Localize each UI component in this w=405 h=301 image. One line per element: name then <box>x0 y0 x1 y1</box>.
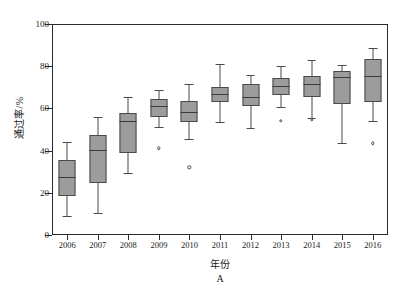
whisker-cap-lower <box>216 122 225 123</box>
y-axis-tick-label: 0 <box>45 231 50 240</box>
whisker-lower <box>219 102 220 122</box>
whisker-cap-upper <box>185 84 194 85</box>
x-axis-title: 年份 <box>210 256 230 271</box>
box-iqr <box>303 76 320 97</box>
box-iqr <box>211 87 228 102</box>
outlier-point <box>371 142 374 145</box>
whisker-cap-lower <box>185 139 194 140</box>
whisker-cap-lower <box>93 213 102 214</box>
outlier-point <box>310 118 313 121</box>
median-line <box>120 121 137 122</box>
x-axis-tick-label: 2015 <box>334 241 351 250</box>
box-iqr <box>242 84 259 106</box>
median-line <box>59 177 76 178</box>
whisker-upper <box>372 48 373 59</box>
y-axis-tick-label: 100 <box>36 20 50 29</box>
box-iqr <box>364 59 381 102</box>
whisker-cap-lower <box>63 216 72 217</box>
whisker-lower <box>158 117 159 128</box>
outlier-point <box>188 166 191 169</box>
median-line <box>181 112 198 113</box>
box-iqr <box>120 113 137 153</box>
x-axis-tick-label: 2009 <box>150 241 167 250</box>
whisker-cap-upper <box>63 142 72 143</box>
whisker-cap-upper <box>277 66 286 67</box>
whisker-upper <box>250 75 251 84</box>
y-axis-tick-label: 20 <box>40 188 49 197</box>
whisker-lower <box>97 183 98 213</box>
whisker-cap-lower <box>154 127 163 128</box>
box-plot-2014 <box>296 24 327 235</box>
x-axis-tick-label: 2010 <box>181 241 198 250</box>
y-axis-tick-label: 40 <box>40 146 49 155</box>
box-plot-2007 <box>83 24 114 235</box>
panel-label: A <box>216 273 223 284</box>
outlier-point <box>279 119 282 122</box>
whisker-lower <box>189 122 190 139</box>
whisker-upper <box>67 142 68 160</box>
box-iqr <box>59 160 76 196</box>
outlier-point <box>157 147 160 150</box>
whisker-lower <box>311 97 312 118</box>
whisker-cap-upper <box>246 75 255 76</box>
y-axis-tick-label: 60 <box>40 104 49 113</box>
whisker-lower <box>67 196 68 216</box>
x-axis-tick-label: 2012 <box>242 241 259 250</box>
median-line <box>334 77 351 78</box>
x-axis-tick-label: 2013 <box>273 241 290 250</box>
whisker-cap-upper <box>338 65 347 66</box>
whisker-lower <box>342 104 343 143</box>
whisker-cap-upper <box>307 60 316 61</box>
median-line <box>242 97 259 98</box>
whisker-lower <box>250 106 251 128</box>
x-axis-tick-label: 2008 <box>120 241 137 250</box>
whisker-cap-lower <box>338 143 347 144</box>
whisker-cap-upper <box>368 48 377 49</box>
box-plot-2015 <box>327 24 358 235</box>
median-line <box>303 84 320 85</box>
whisker-cap-upper <box>154 90 163 91</box>
median-line <box>273 86 290 87</box>
whisker-cap-upper <box>216 64 225 65</box>
x-axis-tick-label: 2006 <box>59 241 76 250</box>
box-iqr <box>89 135 106 184</box>
x-axis-tick-label: 2016 <box>364 241 381 250</box>
whisker-cap-lower <box>368 121 377 122</box>
box-iqr <box>150 99 167 117</box>
y-axis-tick-label: 80 <box>40 62 49 71</box>
median-line <box>211 94 228 95</box>
box-plot-2012 <box>235 24 266 235</box>
whisker-upper <box>158 90 159 98</box>
whisker-lower <box>281 95 282 108</box>
whisker-cap-lower <box>277 107 286 108</box>
whisker-cap-upper <box>124 97 133 98</box>
median-line <box>89 150 106 151</box>
box-plot-2013 <box>266 24 297 235</box>
whisker-cap-lower <box>124 173 133 174</box>
box-plot-2011 <box>205 24 236 235</box>
y-axis-title: 通过率/% <box>11 97 26 140</box>
x-axis-tick-label: 2011 <box>212 241 229 250</box>
figure: 通过率/% 年份 A 02040608010020062007200820092… <box>0 0 405 301</box>
median-line <box>364 76 381 77</box>
box-plot-2009 <box>144 24 175 235</box>
plot-area: 0204060801002006200720082009201020112012… <box>52 24 388 235</box>
x-axis-tick-label: 2014 <box>303 241 320 250</box>
whisker-cap-lower <box>246 128 255 129</box>
whisker-cap-upper <box>93 117 102 118</box>
whisker-upper <box>219 64 220 87</box>
whisker-upper <box>281 66 282 78</box>
median-line <box>150 106 167 107</box>
box-plot-2010 <box>174 24 205 235</box>
whisker-lower <box>128 153 129 173</box>
whisker-upper <box>128 97 129 113</box>
whisker-upper <box>311 60 312 76</box>
whisker-upper <box>97 117 98 135</box>
whisker-upper <box>189 84 190 101</box>
box-plot-2006 <box>52 24 83 235</box>
box-plot-2016 <box>357 24 388 235</box>
box-plot-2008 <box>113 24 144 235</box>
x-axis-tick-label: 2007 <box>89 241 106 250</box>
whisker-lower <box>372 102 373 121</box>
